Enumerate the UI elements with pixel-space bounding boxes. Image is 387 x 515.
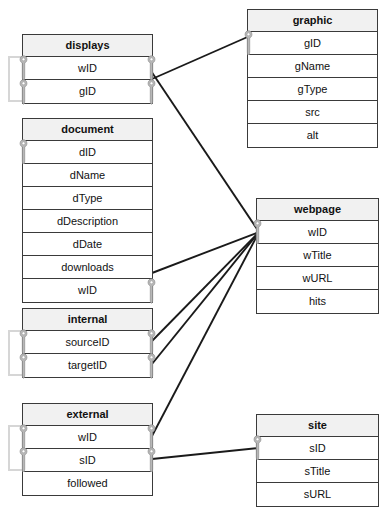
attribute-row[interactable]: sTitle <box>257 460 378 483</box>
attribute-row[interactable]: sID <box>257 437 378 460</box>
attribute-label: gName <box>295 60 330 72</box>
attribute-label: sourceID <box>65 336 109 348</box>
attribute-row[interactable]: gID <box>248 32 377 55</box>
attribute-label: wID <box>78 284 97 296</box>
attribute-row[interactable]: gType <box>248 78 377 101</box>
key-icon <box>19 139 28 165</box>
attribute-label: gType <box>298 83 328 95</box>
attribute-row[interactable]: alt <box>248 124 377 147</box>
attribute-label: src <box>305 106 320 118</box>
entity-table-external[interactable]: externalwIDsIDfollowed <box>22 403 153 496</box>
key-icon <box>253 219 262 245</box>
attribute-label: wID <box>78 62 97 74</box>
relationship-line <box>152 448 259 459</box>
attribute-row[interactable]: wID <box>23 57 152 80</box>
attribute-label: dDescription <box>57 215 118 227</box>
entity-table-title-webpage: webpage <box>257 199 378 221</box>
attribute-label: sTitle <box>305 465 331 477</box>
relationship-line <box>152 232 259 273</box>
entity-table-displays[interactable]: displayswIDgID <box>22 34 153 104</box>
attribute-row[interactable]: sID <box>23 449 152 472</box>
entity-table-title-external: external <box>23 404 152 426</box>
entity-table-site[interactable]: sitesIDsTitlesURL <box>256 414 379 507</box>
attribute-label: dName <box>70 169 105 181</box>
attribute-row[interactable]: src <box>248 101 377 124</box>
entity-table-graphic[interactable]: graphicgIDgNamegTypesrcalt <box>247 9 378 148</box>
key-icon <box>147 79 156 105</box>
attribute-row[interactable]: followed <box>23 472 152 495</box>
attribute-label: wURL <box>303 272 333 284</box>
attribute-label: dID <box>79 146 96 158</box>
attribute-row[interactable]: gName <box>248 55 377 78</box>
attribute-row[interactable]: sURL <box>257 483 378 506</box>
key-icon <box>147 55 156 81</box>
attribute-row[interactable]: dDescription <box>23 210 152 233</box>
attribute-row[interactable]: downloads <box>23 256 152 279</box>
relationship-line <box>152 232 259 436</box>
attribute-label: gID <box>79 85 96 97</box>
entity-table-title-displays: displays <box>23 35 152 57</box>
attribute-label: alt <box>307 129 319 141</box>
attribute-row[interactable]: targetID <box>23 354 152 377</box>
attribute-row[interactable]: gID <box>23 80 152 103</box>
attribute-row[interactable]: wTitle <box>257 244 378 267</box>
attribute-label: wTitle <box>303 249 331 261</box>
attribute-row[interactable]: wURL <box>257 267 378 290</box>
attribute-row[interactable]: wID <box>23 426 152 449</box>
relationship-line <box>149 68 259 232</box>
key-icon <box>244 30 253 56</box>
entity-table-document[interactable]: documentdIDdNamedTypedDescriptiondDatedo… <box>22 118 153 303</box>
attribute-label: followed <box>67 477 107 489</box>
attribute-row[interactable]: hits <box>257 290 378 313</box>
entity-table-title-site: site <box>257 415 378 437</box>
entity-table-internal[interactable]: internalsourceIDtargetID <box>22 308 153 378</box>
attribute-label: gID <box>304 37 321 49</box>
relationship-line <box>152 232 259 341</box>
attribute-row[interactable]: dType <box>23 187 152 210</box>
attribute-label: dType <box>73 192 103 204</box>
attribute-label: sID <box>309 442 326 454</box>
attribute-row[interactable]: dDate <box>23 233 152 256</box>
key-icon <box>253 435 262 461</box>
attribute-row[interactable]: dID <box>23 141 152 164</box>
attribute-label: wID <box>78 431 97 443</box>
entity-table-title-document: document <box>23 119 152 141</box>
relationship-line <box>152 232 259 364</box>
attribute-row[interactable]: wID <box>23 279 152 302</box>
attribute-label: sURL <box>304 488 332 500</box>
attribute-row[interactable]: sourceID <box>23 331 152 354</box>
key-icon <box>147 329 156 355</box>
attribute-label: targetID <box>68 359 107 371</box>
entity-table-title-graphic: graphic <box>248 10 377 32</box>
er-diagram-canvas: displayswIDgIDdocumentdIDdNamedTypedDesc… <box>0 0 387 515</box>
attribute-label: hits <box>309 295 326 307</box>
relationship-line <box>152 35 252 79</box>
key-icon <box>147 278 156 304</box>
attribute-row[interactable]: dName <box>23 164 152 187</box>
attribute-label: sID <box>79 454 96 466</box>
attribute-row[interactable]: wID <box>257 221 378 244</box>
entity-table-webpage[interactable]: webpagewIDwTitlewURLhits <box>256 198 379 314</box>
entity-table-title-internal: internal <box>23 309 152 331</box>
key-icon <box>147 447 156 473</box>
key-icon <box>147 424 156 450</box>
attribute-label: downloads <box>61 261 114 273</box>
attribute-label: dDate <box>73 238 102 250</box>
attribute-label: wID <box>308 226 327 238</box>
key-icon <box>147 353 156 379</box>
